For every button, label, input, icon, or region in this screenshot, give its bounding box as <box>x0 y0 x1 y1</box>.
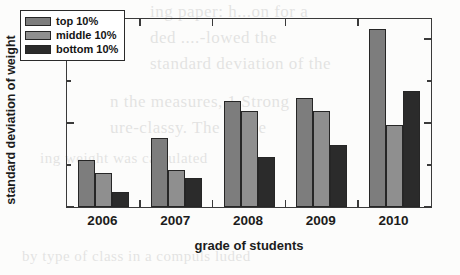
x-axis-tick-label: 2006 <box>87 213 117 228</box>
bar <box>330 145 347 207</box>
legend-item: top 10% <box>25 15 118 28</box>
x-axis-title: grade of students <box>66 238 432 253</box>
y-axis-minor-tick <box>67 164 71 165</box>
bar <box>386 125 403 207</box>
x-axis-tick <box>139 200 141 207</box>
x-axis-tick <box>139 19 141 26</box>
bar <box>185 178 202 207</box>
legend-item: bottom 10% <box>25 43 118 56</box>
y-axis-major-tick <box>424 38 431 40</box>
x-axis-tick <box>212 200 214 207</box>
legend-swatch-middle <box>25 31 51 40</box>
y-axis-major-tick <box>424 206 431 208</box>
legend-item: middle 10% <box>25 29 118 42</box>
legend-swatch-top <box>25 17 51 26</box>
legend-label: middle 10% <box>56 30 117 41</box>
bar <box>112 192 129 207</box>
x-axis-tick-label: 2007 <box>160 213 190 228</box>
bar <box>95 173 112 207</box>
legend-label: bottom 10% <box>56 44 118 55</box>
bar <box>78 160 95 207</box>
y-axis-title: standard deviation of weight <box>4 10 18 230</box>
y-axis-major-tick <box>424 122 431 124</box>
x-axis-tick-label: 2008 <box>233 213 263 228</box>
y-axis-major-tick <box>67 206 74 208</box>
bar <box>151 138 168 207</box>
bar <box>258 157 275 207</box>
bar <box>224 101 241 207</box>
x-axis-tick <box>285 200 287 207</box>
x-axis-tick <box>285 19 287 26</box>
y-axis-minor-tick <box>427 164 431 165</box>
bar <box>313 111 330 207</box>
chart-figure: ing paper: h...on for a ded ....-lowed t… <box>0 0 460 275</box>
x-axis-tick <box>357 19 359 26</box>
y-axis-minor-tick <box>427 80 431 81</box>
x-axis-tick <box>212 19 214 26</box>
bar <box>241 111 258 207</box>
x-axis-tick <box>357 200 359 207</box>
x-axis-tick-label: 2009 <box>306 213 336 228</box>
x-axis-tick-label: 2010 <box>379 213 409 228</box>
y-axis-minor-tick <box>67 80 71 81</box>
bar <box>369 29 386 207</box>
legend-swatch-bottom <box>25 45 51 54</box>
y-axis-major-tick <box>67 122 74 124</box>
legend-label: top 10% <box>56 16 98 27</box>
chart-legend: top 10% middle 10% bottom 10% <box>20 10 125 61</box>
bar <box>296 98 313 207</box>
bar <box>168 170 185 207</box>
bar <box>403 91 420 207</box>
